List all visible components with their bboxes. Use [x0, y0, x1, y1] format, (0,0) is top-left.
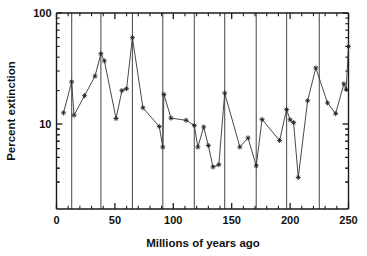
- data-point-marker: [333, 111, 338, 116]
- data-point-marker: [69, 79, 74, 84]
- x-tick-label: 0: [53, 214, 59, 226]
- data-point-marker: [291, 120, 296, 125]
- data-point-marker: [161, 92, 166, 97]
- y-axis-title: Percent extinction: [5, 61, 17, 161]
- data-point-marker: [192, 123, 197, 128]
- data-point-marker: [102, 58, 107, 63]
- y-tick-label: 100: [33, 7, 51, 19]
- extinction-series-line: [64, 38, 349, 178]
- data-point-marker: [346, 44, 351, 49]
- y-tick-labels: 10100: [33, 7, 51, 130]
- x-tick-label: 250: [339, 214, 357, 226]
- extinction-chart: 050100150200250 10100 Millions of years …: [0, 0, 367, 256]
- vertical-gridlines: [72, 13, 320, 209]
- data-point-marker: [82, 93, 87, 98]
- data-point-marker: [325, 100, 330, 105]
- data-point-marker: [119, 88, 124, 93]
- data-point-marker: [313, 65, 318, 70]
- data-point-marker: [160, 145, 165, 150]
- data-point-marker: [130, 35, 135, 40]
- data-point-marker: [284, 107, 289, 112]
- x-tick-label: 100: [164, 214, 182, 226]
- x-major-ticks: [57, 13, 349, 209]
- data-point-marker: [341, 81, 346, 86]
- data-point-marker: [211, 164, 216, 169]
- x-tick-label: 200: [281, 214, 299, 226]
- chart-canvas: 050100150200250 10100 Millions of years …: [0, 0, 367, 256]
- x-tick-labels: 050100150200250: [53, 214, 357, 226]
- data-point-marker: [124, 86, 129, 91]
- x-minor-ticks: [68, 13, 337, 209]
- data-point-marker: [216, 162, 221, 167]
- data-point-marker: [201, 124, 206, 129]
- data-point-marker: [72, 113, 77, 118]
- data-point-marker: [98, 51, 103, 56]
- data-point-marker: [237, 145, 242, 150]
- data-point-marker: [93, 74, 98, 79]
- x-tick-label: 150: [223, 214, 241, 226]
- data-point-marker: [140, 105, 145, 110]
- y-major-ticks: [57, 13, 349, 124]
- data-point-marker: [206, 143, 211, 148]
- data-point-marker: [61, 110, 66, 115]
- data-point-marker: [114, 116, 119, 121]
- data-point-marker: [168, 116, 173, 121]
- y-tick-label: 10: [39, 118, 51, 130]
- y-minor-ticks: [57, 18, 349, 182]
- extinction-series-markers: [61, 35, 351, 180]
- data-point-marker: [195, 145, 200, 150]
- data-point-marker: [246, 135, 251, 140]
- data-point-marker: [184, 118, 189, 123]
- data-point-marker: [344, 87, 349, 92]
- data-point-marker: [157, 124, 162, 129]
- x-tick-label: 50: [109, 214, 121, 226]
- data-point-marker: [260, 117, 265, 122]
- x-axis-title: Millions of years ago: [146, 237, 260, 249]
- data-point-marker: [254, 163, 259, 168]
- data-point-marker: [305, 98, 310, 103]
- data-point-marker: [288, 117, 293, 122]
- data-point-marker: [222, 91, 227, 96]
- data-point-marker: [277, 138, 282, 143]
- data-point-marker: [296, 175, 301, 180]
